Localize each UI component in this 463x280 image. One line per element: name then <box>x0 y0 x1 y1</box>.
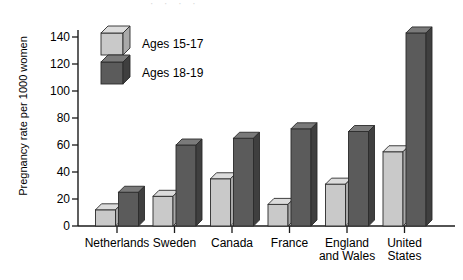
y-tick-label: 20 <box>30 193 70 205</box>
bar-ages-18-19 <box>349 126 375 227</box>
bar-front-face <box>119 192 139 226</box>
bar-ages-18-19 <box>234 132 260 226</box>
y-tick-label: 80 <box>30 112 70 124</box>
legend-swatch-ages-15-17 <box>101 26 130 55</box>
y-tick-label: 40 <box>30 166 70 178</box>
bar-side-face <box>369 126 375 227</box>
bar-front-face <box>406 33 426 226</box>
bar-front-face <box>268 204 288 226</box>
bar-chart-figure: · · · · Pregnancy rate per 1000 women 02… <box>0 0 463 280</box>
bar-ages-15-17 <box>153 190 179 226</box>
bar-ages-15-17 <box>211 173 237 226</box>
bar-side-face <box>196 139 202 226</box>
bar-front-face <box>176 145 196 226</box>
bar-ages-18-19 <box>119 186 145 226</box>
y-tick-label: 100 <box>30 85 70 97</box>
bar-front-face <box>291 129 311 226</box>
legend-cube-front <box>101 33 123 55</box>
bar-side-face <box>139 186 145 226</box>
legend-label: Ages 15-17 <box>142 37 203 51</box>
bar-front-face <box>211 179 231 226</box>
x-category-label: United States <box>369 237 441 263</box>
y-tick-label: 120 <box>30 58 70 70</box>
legend-swatch-ages-18-19 <box>101 55 130 84</box>
bar-front-face <box>326 184 346 226</box>
bar-ages-18-19 <box>291 123 317 226</box>
bar-side-face <box>426 27 432 226</box>
bar-front-face <box>383 152 403 226</box>
bar-ages-15-17 <box>96 204 122 226</box>
bar-ages-18-19 <box>176 139 202 226</box>
bar-front-face <box>349 132 369 227</box>
bar-side-face <box>311 123 317 226</box>
bar-side-face <box>254 132 260 226</box>
y-tick-label: 0 <box>30 220 70 232</box>
legend-label: Ages 18-19 <box>142 66 203 80</box>
bar-front-face <box>234 138 254 226</box>
bar-front-face <box>153 196 173 226</box>
y-tick-label: 140 <box>30 31 70 43</box>
bar-ages-15-17 <box>326 178 352 226</box>
legend-cube-front <box>101 62 123 84</box>
bar-front-face <box>96 210 116 226</box>
bar-ages-18-19 <box>406 27 432 226</box>
bar-ages-15-17 <box>268 198 294 226</box>
bar-ages-15-17 <box>383 146 409 226</box>
y-tick-label: 60 <box>30 139 70 151</box>
